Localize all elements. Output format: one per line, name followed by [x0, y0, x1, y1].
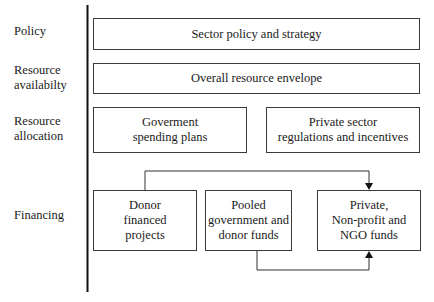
box-sector-policy: Sector policy and strategy — [93, 18, 420, 50]
box-private-regulations: Private sector regulations and incentive… — [266, 107, 420, 153]
connector-pooled-to-private — [257, 250, 369, 270]
box-gov-spending: Goverment spending plans — [93, 107, 247, 153]
connector-donor-to-private — [145, 171, 369, 190]
arrow-up-icon — [365, 251, 373, 258]
box-donor-projects: Donor financed projects — [93, 190, 197, 251]
box-private-ngo: Private, Non-profit and NGO funds — [317, 190, 421, 251]
arrow-down-icon — [365, 183, 373, 190]
box-resource-envelope: Overall resource envelope — [93, 63, 420, 94]
box-pooled-funds: Pooled government and donor funds — [205, 190, 292, 251]
